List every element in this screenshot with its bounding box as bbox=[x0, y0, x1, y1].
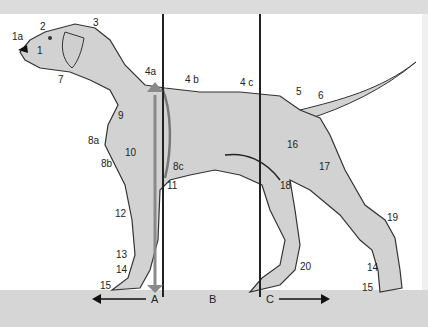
dog-illustration bbox=[0, 0, 428, 327]
label-8b: 8b bbox=[101, 159, 112, 169]
label-2: 2 bbox=[40, 22, 46, 32]
label-11: 11 bbox=[167, 181, 177, 191]
label-9: 9 bbox=[118, 111, 124, 121]
label-4b: 4 b bbox=[185, 75, 199, 85]
label-14-rear: 14 bbox=[367, 263, 378, 273]
label-4c: 4 c bbox=[240, 78, 253, 88]
label-17: 17 bbox=[319, 162, 330, 172]
label-16: 16 bbox=[287, 140, 298, 150]
label-3: 3 bbox=[93, 18, 99, 28]
label-8a: 8a bbox=[88, 136, 99, 146]
label-8c: 8c bbox=[173, 162, 184, 172]
label-19: 19 bbox=[387, 213, 398, 223]
label-15-front: 15 bbox=[100, 281, 111, 291]
label-15-rear: 15 bbox=[362, 283, 373, 293]
label-13: 13 bbox=[116, 250, 127, 260]
label-1: 1 bbox=[37, 46, 43, 56]
label-18: 18 bbox=[280, 181, 291, 191]
zone-label-b: B bbox=[209, 294, 216, 305]
label-5: 5 bbox=[296, 87, 302, 97]
label-14-front: 14 bbox=[116, 265, 127, 275]
zone-label-c: C bbox=[266, 294, 274, 305]
zone-label-a: A bbox=[151, 294, 158, 305]
label-10: 10 bbox=[125, 148, 136, 158]
label-12: 12 bbox=[115, 209, 126, 219]
label-6: 6 bbox=[318, 91, 324, 101]
label-4a: 4a bbox=[145, 67, 156, 77]
label-7: 7 bbox=[58, 75, 64, 85]
label-20: 20 bbox=[300, 262, 311, 272]
label-1a: 1a bbox=[12, 32, 23, 42]
